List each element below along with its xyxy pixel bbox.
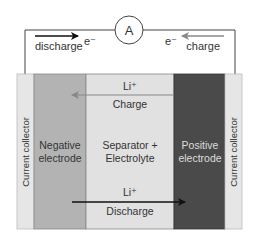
separator-label-1: Separator + — [102, 139, 157, 151]
discharge-label: discharge — [35, 40, 83, 52]
positive-electrode-label-2: electrode — [178, 152, 221, 164]
charge-ion-flow-label: Charge — [113, 98, 148, 110]
negative-electrode-label-2: electrode — [38, 152, 81, 164]
discharge-ion-flow-label: Discharge — [106, 205, 153, 217]
left-electron-label: e⁻ — [84, 35, 96, 47]
battery-diagram: A discharge e⁻ e⁻ charge Current collect… — [0, 0, 253, 244]
left-collector-label: Current collector — [20, 117, 31, 187]
separator-label-2: Electrolyte — [105, 152, 154, 164]
right-electron-label: e⁻ — [165, 35, 177, 47]
charge-label: charge — [186, 40, 220, 52]
external-circuit: A discharge e⁻ e⁻ charge — [25, 16, 235, 74]
negative-electrode-label-1: Negative — [39, 139, 81, 151]
charge-ion-label: Li⁺ — [123, 80, 137, 92]
ammeter-label: A — [125, 23, 134, 38]
right-collector-label: Current collector — [228, 117, 239, 187]
discharge-ion-label: Li⁺ — [123, 186, 137, 198]
positive-electrode-label-1: Positive — [182, 139, 219, 151]
